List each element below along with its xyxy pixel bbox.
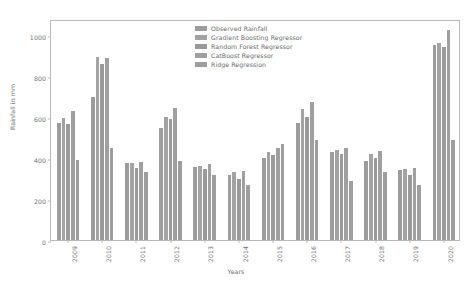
bar — [364, 161, 368, 240]
x-axis-tick-mark — [375, 240, 376, 243]
x-axis-tick-label: 2018 — [378, 246, 385, 262]
x-axis-tick-mark — [102, 240, 103, 243]
bar — [57, 123, 61, 240]
rainfall-prediction-bar-chart: Rainfall in mm 0200400600800100020092010… — [0, 0, 472, 284]
x-axis-tick-label: 2010 — [105, 246, 112, 262]
bar — [246, 185, 250, 240]
x-axis-tick-mark — [443, 240, 444, 243]
bar — [344, 148, 348, 240]
bar — [91, 97, 95, 240]
bar-group — [427, 21, 461, 240]
bar — [340, 154, 344, 240]
x-axis-tick-label: 2013 — [207, 246, 214, 262]
bar — [301, 109, 305, 240]
bar — [281, 144, 285, 240]
bar — [96, 57, 100, 240]
bar — [159, 128, 163, 240]
bar — [100, 64, 104, 240]
bar — [267, 152, 271, 240]
legend-item[interactable]: Observed Rainfall — [195, 24, 302, 33]
bar-group — [359, 21, 393, 240]
legend: Observed RainfallGradient Boosting Regre… — [192, 22, 306, 72]
x-axis-tick-label: 2009 — [71, 246, 78, 262]
legend-label: CatBoost Regressor — [211, 52, 274, 59]
x-axis-tick-mark — [307, 240, 308, 243]
legend-swatch — [195, 26, 207, 31]
x-axis-tick-mark — [238, 240, 239, 243]
legend-swatch — [195, 53, 207, 58]
bar — [383, 172, 387, 240]
x-axis-tick-label: 2016 — [310, 246, 317, 262]
bar — [262, 158, 266, 240]
x-axis-tick-mark — [341, 240, 342, 243]
x-axis-tick-mark — [409, 240, 410, 243]
bar — [139, 162, 143, 240]
bar — [71, 111, 75, 240]
bar — [144, 172, 148, 240]
x-axis-tick-label: 2017 — [344, 246, 351, 262]
bar — [330, 152, 334, 240]
bar-group — [119, 21, 153, 240]
x-axis-tick-label: 2014 — [242, 246, 249, 262]
bar — [62, 118, 66, 240]
bar-group — [51, 21, 85, 240]
bar — [403, 169, 407, 240]
y-axis-label: Rainfall in mm — [9, 84, 16, 130]
x-axis-tick-label: 2012 — [173, 246, 180, 262]
bar — [105, 58, 109, 240]
x-axis-tick-mark — [136, 240, 137, 243]
bar — [169, 119, 173, 240]
bar — [398, 170, 402, 240]
legend-swatch — [195, 44, 207, 49]
bar — [408, 175, 412, 240]
bar — [76, 160, 80, 240]
bar — [315, 140, 319, 240]
bar-group — [393, 21, 427, 240]
bar — [135, 168, 139, 240]
bar — [228, 175, 232, 240]
bar — [242, 171, 246, 240]
bar — [413, 168, 417, 240]
x-axis-tick-mark — [170, 240, 171, 243]
bar — [110, 148, 114, 240]
bar — [130, 163, 134, 240]
bar — [271, 155, 275, 240]
bar — [232, 172, 236, 240]
legend-item[interactable]: Random Forest Regressor — [195, 42, 302, 51]
x-axis-tick-label: 2011 — [139, 246, 146, 262]
bar — [178, 161, 182, 240]
bar — [310, 102, 314, 240]
bar — [164, 117, 168, 240]
bar — [173, 108, 177, 240]
bar-group — [154, 21, 188, 240]
bar — [378, 151, 382, 240]
legend-item[interactable]: Gradient Boosting Regressor — [195, 33, 302, 42]
legend-swatch — [195, 35, 207, 40]
legend-item[interactable]: Ridge Regression — [195, 60, 302, 69]
x-axis-label: Years — [0, 268, 472, 275]
bar — [433, 45, 437, 240]
legend-swatch — [195, 62, 207, 67]
bar — [276, 148, 280, 240]
bar — [212, 175, 216, 240]
legend-item[interactable]: CatBoost Regressor — [195, 51, 302, 60]
x-axis-tick-mark — [204, 240, 205, 243]
bar — [296, 123, 300, 240]
bar-group — [85, 21, 119, 240]
bar — [417, 185, 421, 240]
bar — [349, 181, 353, 240]
x-axis-tick-mark — [68, 240, 69, 243]
legend-label: Gradient Boosting Regressor — [211, 34, 302, 41]
bar — [208, 164, 212, 240]
bar — [442, 47, 446, 240]
bar — [447, 30, 451, 240]
bar — [369, 154, 373, 240]
bar — [305, 117, 309, 240]
bar-group — [324, 21, 358, 240]
legend-label: Observed Rainfall — [211, 25, 267, 32]
x-axis-tick-label: 2015 — [276, 246, 283, 262]
bar — [198, 166, 202, 240]
bar — [451, 140, 455, 240]
bar — [237, 179, 241, 240]
bar — [203, 169, 207, 240]
